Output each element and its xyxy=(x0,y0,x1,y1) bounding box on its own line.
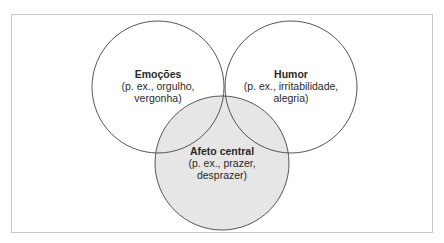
label-humor: Humor (p. ex., irritabilidade, alegria) xyxy=(244,68,339,104)
label-afeto-central-title: Afeto central xyxy=(188,145,255,157)
label-humor-title: Humor xyxy=(244,68,339,80)
label-emocoes: Emoções (p. ex., orgulho, vergonha) xyxy=(122,68,195,104)
label-afeto-central: Afeto central (p. ex., prazer, desprazer… xyxy=(188,145,255,181)
label-afeto-central-line-1: (p. ex., prazer, xyxy=(188,157,255,169)
venn-diagram xyxy=(0,0,444,243)
label-humor-line-2: alegria) xyxy=(244,92,339,104)
label-emocoes-title: Emoções xyxy=(122,68,195,80)
label-humor-line-1: (p. ex., irritabilidade, xyxy=(244,80,339,92)
label-emocoes-line-2: vergonha) xyxy=(122,92,195,104)
label-emocoes-line-1: (p. ex., orgulho, xyxy=(122,80,195,92)
label-afeto-central-line-2: desprazer) xyxy=(188,169,255,181)
